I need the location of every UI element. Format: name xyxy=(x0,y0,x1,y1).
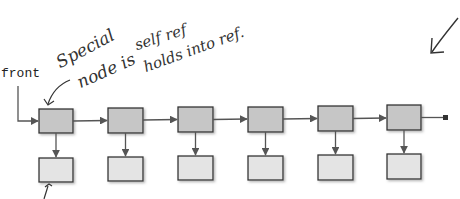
annotation-arrow-to-first-node xyxy=(48,80,70,104)
list-node-5 xyxy=(318,106,353,180)
next-arrow-2 xyxy=(143,120,177,121)
front-pointer-line xyxy=(18,86,38,121)
annotation-arrow-to-first-data-node xyxy=(44,186,48,199)
list-node-4 xyxy=(248,107,283,180)
data-node-5 xyxy=(318,155,353,180)
data-node-3 xyxy=(178,156,213,180)
data-node-6 xyxy=(387,154,421,179)
data-node-2 xyxy=(108,157,143,181)
null-terminator xyxy=(443,115,448,120)
linked-list-diagram xyxy=(0,0,460,199)
next-arrow-1 xyxy=(73,121,107,122)
next-arrow-5 xyxy=(353,118,386,119)
annotation-arrow-corner xyxy=(432,18,458,52)
list-node-3 xyxy=(178,107,213,180)
next-arrow-4 xyxy=(283,119,317,120)
list-node-2 xyxy=(108,108,143,181)
list-node-1 xyxy=(39,109,73,182)
data-node-4 xyxy=(248,156,283,180)
data-node-1 xyxy=(39,158,73,182)
list-node-6 xyxy=(387,105,421,179)
next-arrow-3 xyxy=(213,119,247,120)
